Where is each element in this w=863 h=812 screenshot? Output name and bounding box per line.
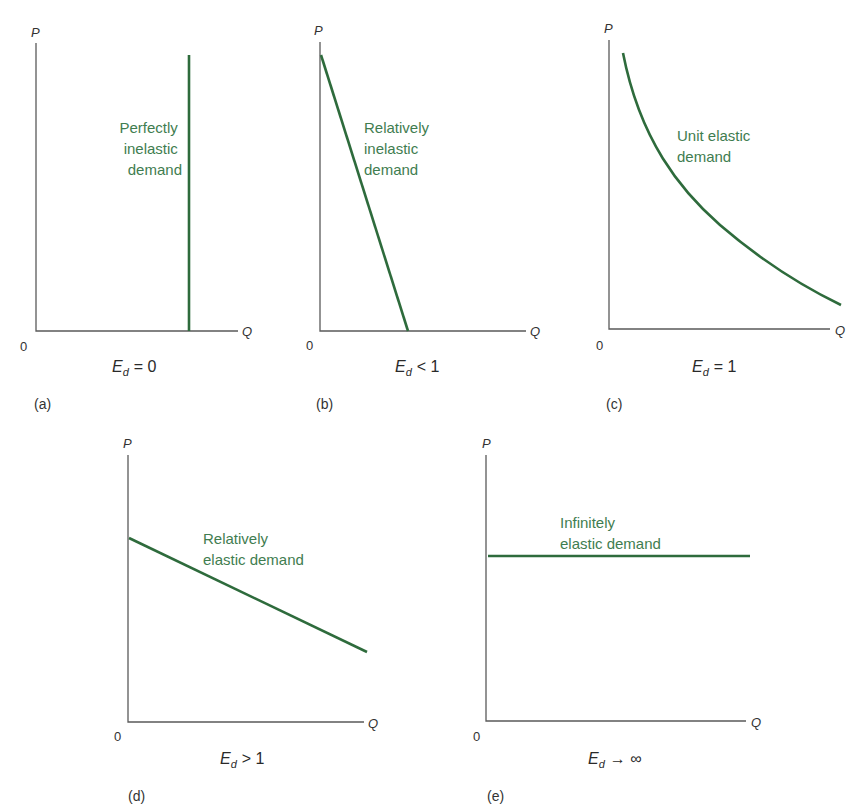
x-axis-label: Q xyxy=(242,324,252,339)
elasticity-condition: Ed= 1 xyxy=(692,358,737,378)
curve-annotation: Perfectly inelastic demand xyxy=(119,119,182,178)
origin-label: 0 xyxy=(473,729,480,744)
elasticity-figure: P Q 0 Perfectly inelastic demand Ed= 0 (… xyxy=(0,0,863,812)
panel-c: P Q 0 Unit elastic demand Ed= 1 (c) xyxy=(596,21,845,412)
x-axis-label: Q xyxy=(368,716,378,731)
elasticity-condition: Ed> 1 xyxy=(220,750,265,770)
x-axis-label: Q xyxy=(751,715,761,730)
axes xyxy=(36,43,238,331)
panel-label: (e) xyxy=(487,788,504,804)
curve-annotation: Relatively elastic demand xyxy=(203,530,304,568)
y-axis-label: P xyxy=(482,436,491,451)
axes xyxy=(609,40,830,329)
curve-annotation: Infinitely elastic demand xyxy=(560,514,661,552)
y-axis-label: P xyxy=(31,25,40,40)
demand-curve xyxy=(623,53,841,305)
origin-label: 0 xyxy=(20,339,27,354)
panel-d: P Q 0 Relatively elastic demand Ed> 1 (d… xyxy=(114,436,378,804)
curve-annotation: Unit elastic demand xyxy=(677,127,755,165)
origin-label: 0 xyxy=(306,338,313,353)
panel-label: (a) xyxy=(34,396,51,412)
panel-label: (b) xyxy=(316,396,333,412)
axes xyxy=(128,455,364,722)
y-axis-label: P xyxy=(123,436,132,451)
axes xyxy=(320,42,526,331)
panel-label: (d) xyxy=(128,788,145,804)
x-axis-label: Q xyxy=(835,323,845,338)
y-axis-label: P xyxy=(314,23,323,38)
panel-label: (c) xyxy=(606,396,622,412)
elasticity-condition: Ed→ ∞ xyxy=(588,750,642,770)
x-axis-label: Q xyxy=(530,324,540,339)
demand-curve xyxy=(321,55,408,331)
origin-label: 0 xyxy=(596,338,603,353)
panel-a: P Q 0 Perfectly inelastic demand Ed= 0 (… xyxy=(20,25,252,412)
elasticity-condition: Ed= 0 xyxy=(112,358,157,378)
panel-b: P Q 0 Relatively inelastic demand Ed< 1 … xyxy=(306,23,540,412)
axes xyxy=(486,455,746,721)
curve-annotation: Relatively inelastic demand xyxy=(364,119,433,178)
y-axis-label: P xyxy=(604,21,613,36)
origin-label: 0 xyxy=(114,729,121,744)
elasticity-condition: Ed< 1 xyxy=(395,358,440,378)
panel-e: P Q 0 Infinitely elastic demand Ed→ ∞ (e… xyxy=(473,436,761,804)
